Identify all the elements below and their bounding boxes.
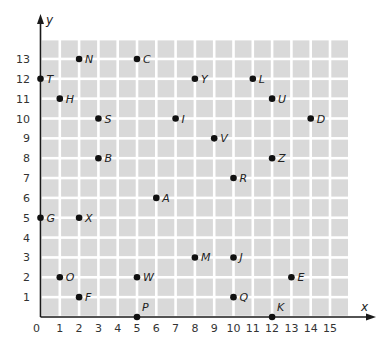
grid-cell [331,259,348,276]
data-point-b: B [95,152,112,165]
data-point-w: W [134,271,155,284]
grid-cell [254,199,271,216]
grid-cell [235,100,252,117]
grid-cell [254,239,271,256]
grid-cell [177,279,194,296]
point-marker-icon [230,254,237,261]
grid-cell [177,100,194,117]
grid-cell [100,239,117,256]
grid-cell [293,179,310,196]
grid-cell [80,179,97,196]
grid-cell [293,140,310,157]
grid-cell [158,80,175,97]
point-label: W [143,271,155,284]
grid-cell [273,60,290,77]
grid-cell [158,60,175,77]
data-point-a: A [153,192,170,205]
data-point-d: D [307,113,325,126]
x-tick-label: 14 [304,322,318,335]
point-label: K [277,301,285,314]
grid-cell [273,40,290,57]
grid-cell [273,199,290,216]
grid-cell [158,140,175,157]
grid-cell [100,80,117,97]
grid-cell [273,239,290,256]
grid-cell [254,279,271,296]
grid-cell [61,298,78,315]
grid-cell [177,120,194,137]
grid-cell [61,179,78,196]
grid-cell [61,140,78,157]
point-marker-icon [76,56,83,63]
x-tick-label: 1 [56,322,63,335]
grid-cell [158,219,175,236]
x-tick-label: 15 [323,322,337,335]
data-point-r: R [230,172,247,185]
grid-cell [42,179,59,196]
grid-cell [158,120,175,137]
grid-cell [331,219,348,236]
grid-cell [312,259,329,276]
point-marker-icon [269,314,276,321]
grid-cell [119,219,136,236]
y-tick-label: 12 [16,73,30,86]
grid-cell [331,279,348,296]
grid-cell [312,80,329,97]
point-marker-icon [250,76,257,83]
grid-cell [331,100,348,117]
x-tick-labels: 0123456789101112131415 [33,322,337,335]
point-label: Z [277,152,286,165]
grid-cell [42,279,59,296]
y-axis-arrow-icon [37,14,44,24]
data-point-q: Q [230,291,248,304]
grid-cell [61,239,78,256]
point-marker-icon [269,155,276,162]
y-tick-label: 8 [23,152,30,165]
grid-cell [312,140,329,157]
grid-cell [177,179,194,196]
point-label: S [104,113,111,126]
grid-cell [312,239,329,256]
grid-cell [235,239,252,256]
grid-cell [42,239,59,256]
grid-cell [312,279,329,296]
grid-cell [119,259,136,276]
y-tick-label: 3 [23,251,30,264]
grid-cell [100,279,117,296]
point-marker-icon [307,115,314,122]
x-tick-label: 8 [191,322,198,335]
y-tick-label: 9 [23,132,30,145]
grid-cell [331,120,348,137]
point-marker-icon [211,135,218,142]
grid-cell [177,60,194,77]
grid-cell [42,160,59,177]
grid-cell [235,80,252,97]
grid-cell [61,40,78,57]
grid-cell [138,100,155,117]
grid-cell [273,259,290,276]
grid-cell [216,160,233,177]
grid-cell [293,40,310,57]
grid-cell [80,140,97,157]
grid-cell [42,100,59,117]
grid-cell [216,60,233,77]
grid-cell [216,298,233,315]
grid-cell [177,219,194,236]
point-marker-icon [95,155,102,162]
grid-cell [158,100,175,117]
grid-cell [293,100,310,117]
data-point-c: C [134,53,151,66]
data-point-v: V [211,132,229,145]
y-tick-label: 10 [16,113,30,126]
grid-cell [331,179,348,196]
grid-cell [312,60,329,77]
grid-cell [331,298,348,315]
grid-cell [138,179,155,196]
grid-cell [119,298,136,315]
point-label: Q [240,291,249,304]
point-marker-icon [192,254,199,261]
grid-cell [331,40,348,57]
grid-cell [254,100,271,117]
x-tick-label: 0 [33,322,40,335]
x-tick-label: 2 [76,322,83,335]
